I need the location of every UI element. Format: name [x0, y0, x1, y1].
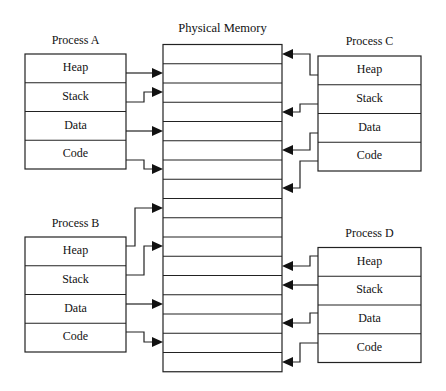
- process-a-segment-data: Data: [25, 118, 126, 132]
- process-c-stack-arrow-head-icon: [282, 107, 293, 117]
- process-c-segment-heap: Heap: [318, 62, 421, 76]
- process-c-segment-code: Code: [318, 148, 421, 162]
- process-b-data-arrow-head-icon: [152, 299, 163, 309]
- process-c-heap-arrow-head-icon: [282, 49, 293, 59]
- process-c-stack-arrow: [291, 104, 318, 112]
- process-b-code-arrow-head-icon: [152, 337, 163, 347]
- process-c-data-arrow-head-icon: [282, 145, 293, 155]
- physical-memory-block: [163, 45, 282, 372]
- process-d-heap-arrow: [291, 256, 318, 266]
- process-c-code-arrow: [291, 161, 318, 188]
- process-b-segment-stack: Stack: [25, 272, 126, 286]
- process-a-stack-arrow: [126, 92, 154, 102]
- process-c-heap-arrow: [291, 54, 318, 75]
- process-d-heap-arrow-head-icon: [282, 261, 293, 271]
- process-c-code-arrow-head-icon: [282, 183, 293, 193]
- process-b-stack-arrow-head-icon: [152, 241, 163, 251]
- process-d-segment-code: Code: [318, 340, 421, 354]
- process-c-data-arrow: [291, 133, 318, 150]
- process-a-data-arrow-head-icon: [152, 126, 163, 136]
- process-a-stack-arrow-head-icon: [152, 87, 163, 97]
- process-a-segment-heap: Heap: [25, 60, 126, 74]
- physical-memory-title: Physical Memory: [163, 21, 282, 35]
- process-c-label: Process C: [318, 34, 421, 48]
- process-a-heap-arrow-head-icon: [152, 68, 163, 78]
- process-d-segment-data: Data: [318, 311, 421, 325]
- physical-memory-outline: [163, 45, 282, 372]
- process-b-segment-heap: Heap: [25, 243, 126, 257]
- process-b-heap-arrow-head-icon: [152, 203, 163, 213]
- process-d-label: Process D: [318, 226, 421, 240]
- process-d-data-arrow: [291, 313, 318, 323]
- process-a-label: Process A: [25, 33, 126, 47]
- process-d-segment-heap: Heap: [318, 254, 421, 268]
- process-c-segment-stack: Stack: [318, 91, 421, 105]
- process-d-code-arrow: [291, 343, 318, 362]
- process-a-segment-code: Code: [25, 146, 126, 160]
- process-d-code-arrow-head-icon: [282, 357, 293, 367]
- process-a-code-arrow-head-icon: [152, 164, 163, 174]
- process-d-segment-stack: Stack: [318, 282, 421, 296]
- process-c-segment-data: Data: [318, 120, 421, 134]
- process-a-code-arrow: [126, 160, 154, 169]
- process-b-code-arrow: [126, 332, 154, 342]
- process-d-stack-arrow-head-icon: [282, 280, 293, 290]
- process-a-segment-stack: Stack: [25, 89, 126, 103]
- process-b-segment-data: Data: [25, 301, 126, 315]
- process-b-stack-arrow: [126, 246, 154, 275]
- memory-mapping-diagram: Physical Memory Process AHeapStackDataCo…: [0, 0, 446, 391]
- process-b-heap-arrow: [126, 208, 154, 246]
- process-b-segment-code: Code: [25, 329, 126, 343]
- process-d-data-arrow-head-icon: [282, 318, 293, 328]
- process-b-label: Process B: [25, 216, 126, 230]
